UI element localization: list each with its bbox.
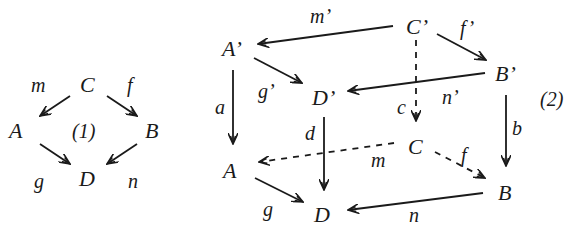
node-C-prime: C’ [406, 14, 428, 39]
node-C: C [80, 72, 95, 97]
node-B-prime: B’ [495, 61, 516, 86]
label-n-prime: n’ [442, 86, 459, 108]
diagram-2-tag: (2) [540, 88, 564, 111]
label-n: n [128, 170, 138, 192]
label-g-prime: g’ [258, 80, 275, 103]
label-m: m [31, 74, 45, 96]
node-A: A [221, 158, 237, 183]
label-g: g [34, 170, 44, 193]
diagram-1: C A B D (1) m f g n [7, 72, 158, 193]
arrow-f [435, 152, 485, 178]
label-m-prime: m’ [310, 5, 331, 27]
arrow-n [107, 144, 137, 164]
label-f: f [127, 74, 135, 97]
arrow-g [40, 144, 70, 164]
diagram-1-tag: (1) [72, 120, 96, 143]
commutative-diagrams: C A B D (1) m f g n A’ C’ B’ D’ A C B D [0, 0, 574, 228]
label-m: m [371, 149, 385, 171]
arrow-m [40, 96, 70, 116]
node-C: C [408, 134, 423, 159]
label-g: g [263, 198, 273, 221]
diagram-2: A’ C’ B’ D’ A C B D m’ f’ g’ n’ a b c d … [215, 5, 564, 227]
label-a: a [215, 96, 225, 118]
label-d: d [305, 122, 316, 144]
label-b: b [512, 117, 522, 139]
node-B: B [498, 180, 511, 205]
arrow-m-prime [258, 26, 393, 44]
node-A: A [7, 118, 23, 143]
arrow-f [107, 96, 137, 116]
node-D: D [313, 202, 330, 227]
node-D: D [78, 166, 95, 191]
node-D-prime: D’ [311, 85, 335, 110]
label-c: c [397, 96, 406, 118]
node-A-prime: A’ [220, 36, 242, 61]
label-f: f [461, 144, 469, 167]
node-B: B [145, 118, 158, 143]
label-n: n [409, 204, 419, 226]
label-f-prime: f’ [460, 17, 474, 40]
